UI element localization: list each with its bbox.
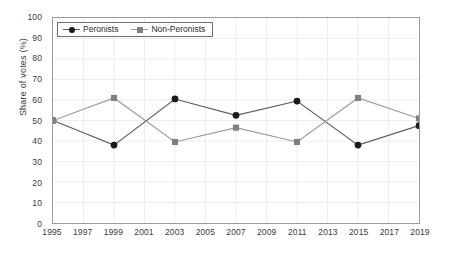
y-tick-label: 60 (32, 96, 42, 105)
data-point (294, 139, 300, 145)
x-tick-label: 2015 (349, 228, 368, 237)
legend-label-peronists: Peronists (83, 25, 118, 34)
x-tick-label: 2005 (196, 228, 215, 237)
legend-label-non-peronists: Non-Peronists (151, 25, 205, 34)
x-tick-label: 2003 (165, 228, 184, 237)
x-tick-label: 1995 (42, 228, 61, 237)
x-tick-label: 2009 (257, 228, 276, 237)
series-line (53, 99, 419, 145)
y-tick-label: 40 (32, 137, 42, 146)
data-point (233, 112, 240, 119)
chart-legend[interactable]: Peronists Non-Peronists (57, 22, 213, 37)
x-tick-label: 2007 (226, 228, 245, 237)
y-tick-label: 0 (37, 220, 42, 229)
y-tick-label: 70 (32, 75, 42, 84)
y-tick-label: 50 (32, 116, 42, 125)
x-tick-label: 1997 (73, 228, 92, 237)
data-point (53, 117, 56, 123)
data-point (294, 98, 301, 105)
y-tick-label: 20 (32, 178, 42, 187)
y-tick-label: 100 (28, 13, 42, 22)
x-tick-label: 2013 (318, 228, 337, 237)
data-series-layer (53, 18, 419, 223)
y-tick-label: 80 (32, 54, 42, 63)
data-point (172, 139, 178, 145)
series-peronists (53, 96, 419, 149)
data-point (355, 142, 362, 149)
data-point (233, 125, 239, 131)
series-line (53, 98, 419, 142)
chart-container: Share of votes (%) 010203040506070809010… (0, 0, 474, 254)
data-point (111, 95, 117, 101)
y-tick-label: 90 (32, 33, 42, 42)
x-tick-label: 2011 (288, 228, 307, 237)
x-tick-label: 2017 (380, 228, 399, 237)
data-point (416, 122, 419, 129)
x-tick-label: 2001 (134, 228, 153, 237)
series-non-peronists (53, 95, 419, 145)
legend-item-peronists[interactable]: Peronists (63, 25, 118, 34)
legend-item-non-peronists[interactable]: Non-Peronists (131, 25, 205, 34)
data-point (172, 96, 179, 103)
data-point (111, 142, 118, 149)
plot-area (52, 17, 420, 224)
data-point (416, 115, 419, 121)
legend-marker-circle-icon (63, 25, 80, 34)
y-tick-label: 10 (32, 199, 42, 208)
y-tick-label: 30 (32, 158, 42, 167)
legend-marker-square-icon (131, 25, 148, 34)
x-tick-label: 2019 (410, 228, 429, 237)
x-tick-label: 1999 (104, 228, 123, 237)
data-point (355, 95, 361, 101)
x-axis-tick-labels: 1995199719992001200320052007200920112013… (52, 228, 420, 244)
y-axis-tick-labels: 0102030405060708090100 (0, 17, 48, 224)
